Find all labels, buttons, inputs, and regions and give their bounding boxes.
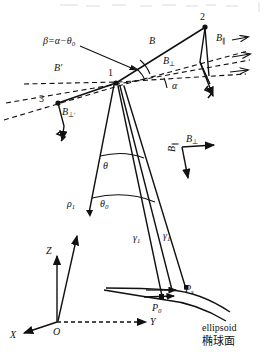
ray-to-satellite xyxy=(58,236,77,321)
label-gamma: γ1 xyxy=(163,231,170,243)
label-point-Ps: Ps xyxy=(185,284,194,296)
arrow-horizontal-right xyxy=(230,70,248,72)
label-point-P0: P0 xyxy=(152,303,162,315)
label-vector-B-prime: B′ xyxy=(54,63,62,73)
arc-alpha xyxy=(164,78,167,88)
label-axis-Y: Y xyxy=(150,317,156,327)
ellipsoid-curve-lower xyxy=(104,290,226,321)
label-key-B-perp: B⊥ xyxy=(186,134,198,146)
label-point-2: 2 xyxy=(200,12,205,22)
look-angle-arcs xyxy=(92,153,155,202)
label-axis-X: X xyxy=(10,330,16,340)
label-point-1: 1 xyxy=(108,68,113,78)
rho1-tick xyxy=(86,210,93,217)
label-angle-theta0: θ0 xyxy=(100,199,108,211)
label-B-perp-at-2: B⊥ xyxy=(163,56,175,68)
label-angle-alpha: α xyxy=(172,81,177,91)
look-cone xyxy=(89,85,186,296)
zigzag-mark-3 xyxy=(57,131,65,141)
top-scan-noise xyxy=(60,2,259,12)
dashed-line-horizontal-ref xyxy=(24,74,246,84)
figure-root: β=α−θ0 1 2 3 B B′ B∥ B⊥ B⊥′ α θ θ0 ρ1 B⊥… xyxy=(0,0,266,355)
label-key-B-parallel: B∥ xyxy=(167,142,179,152)
label-origin-O: O xyxy=(53,327,60,337)
label-range-rho1: ρ1 xyxy=(67,199,75,211)
label-gamma-1: γ1 xyxy=(133,233,140,245)
label-ellipsoid-cn: 椭球面 xyxy=(202,336,235,349)
rho1-end-tick xyxy=(86,210,93,217)
label-ellipsoid-en: ellipsoid xyxy=(202,322,236,334)
cone-right-edge-inner xyxy=(120,86,172,290)
B-parallel-segment-2 xyxy=(205,28,209,76)
diagram-canvas xyxy=(0,0,266,355)
label-axis-Z: Z xyxy=(46,246,52,256)
key-axes-cross xyxy=(182,145,214,178)
baseline-vectors xyxy=(58,28,204,103)
cone-right-edge-far xyxy=(124,86,186,289)
zigzag-mark-2 xyxy=(205,86,212,98)
label-B-perp-prime-at-3: B⊥′ xyxy=(62,107,76,119)
satellite-nodes xyxy=(55,24,207,105)
label-point-3: 3 xyxy=(39,94,44,104)
ellipsoid-surface xyxy=(104,288,230,321)
label-beta-relation: β=α−θ0 xyxy=(43,36,75,48)
label-angle-theta: θ xyxy=(103,161,108,171)
key-B-par-arrow xyxy=(182,147,188,178)
label-B-parallel-at-2: B∥ xyxy=(216,33,226,45)
coordinate-frame xyxy=(24,236,146,333)
label-vector-B: B xyxy=(149,36,155,46)
P0-marker xyxy=(159,294,164,299)
cone-left-edge xyxy=(89,85,114,213)
arrow-lower-right xyxy=(232,37,248,40)
reference-dashed-lines xyxy=(4,51,250,120)
